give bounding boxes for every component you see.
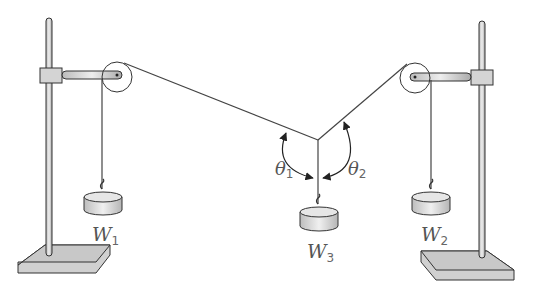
theta2-arc bbox=[323, 122, 351, 178]
label-w3: W3 bbox=[307, 240, 334, 265]
left-clamp bbox=[40, 68, 62, 83]
string-right-diagonal bbox=[318, 64, 407, 140]
label-w1: W1 bbox=[92, 223, 119, 248]
left-arm bbox=[62, 71, 122, 79]
diagram: W1 W2 W3 θ1 θ2 bbox=[0, 0, 533, 290]
right-clamp bbox=[471, 70, 493, 85]
right-stand bbox=[400, 21, 514, 280]
right-arm bbox=[410, 73, 471, 81]
string-left-diagonal bbox=[124, 63, 318, 140]
weight-w1 bbox=[84, 179, 122, 215]
label-w2: W2 bbox=[421, 223, 448, 248]
right-rod bbox=[479, 21, 485, 258]
label-theta1: θ1 bbox=[275, 158, 293, 181]
left-rod bbox=[46, 18, 52, 256]
label-theta2: θ2 bbox=[348, 158, 366, 181]
strings bbox=[102, 63, 431, 204]
weight-w3 bbox=[300, 194, 338, 231]
